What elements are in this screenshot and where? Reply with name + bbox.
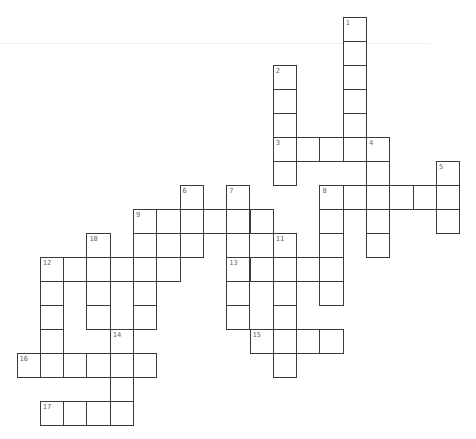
crossword-cell[interactable] xyxy=(273,281,297,306)
crossword-cell[interactable] xyxy=(133,233,157,258)
crossword-cell[interactable] xyxy=(86,401,110,426)
cell-input[interactable] xyxy=(437,162,459,185)
crossword-cell[interactable] xyxy=(366,233,390,258)
cell-input[interactable] xyxy=(134,306,156,329)
crossword-cell[interactable] xyxy=(156,233,180,258)
crossword-cell[interactable] xyxy=(133,257,157,282)
cell-input[interactable] xyxy=(297,138,319,161)
cell-input[interactable] xyxy=(367,138,389,161)
crossword-cell[interactable] xyxy=(226,281,250,306)
crossword-cell[interactable] xyxy=(343,41,367,66)
cell-input[interactable] xyxy=(134,234,156,257)
crossword-cell[interactable] xyxy=(273,353,297,378)
cell-input[interactable] xyxy=(274,234,296,257)
crossword-cell[interactable]: 7 xyxy=(226,185,250,210)
cell-input[interactable] xyxy=(111,402,133,425)
crossword-cell[interactable]: 3 xyxy=(273,137,297,162)
crossword-cell[interactable] xyxy=(86,281,110,306)
cell-input[interactable] xyxy=(320,138,342,161)
crossword-cell[interactable] xyxy=(319,233,343,258)
crossword-cell[interactable]: 4 xyxy=(366,137,390,162)
crossword-cell[interactable] xyxy=(156,209,180,234)
crossword-cell[interactable] xyxy=(366,161,390,186)
crossword-cell[interactable] xyxy=(296,329,320,354)
cell-input[interactable] xyxy=(367,234,389,257)
cell-input[interactable] xyxy=(437,186,459,209)
cell-input[interactable] xyxy=(227,210,249,233)
crossword-cell[interactable] xyxy=(389,185,413,210)
crossword-cell[interactable] xyxy=(273,329,297,354)
crossword-cell[interactable] xyxy=(133,305,157,330)
cell-input[interactable] xyxy=(251,258,273,281)
crossword-cell[interactable] xyxy=(180,233,204,258)
cell-input[interactable] xyxy=(274,114,296,137)
cell-input[interactable] xyxy=(157,258,179,281)
cell-input[interactable] xyxy=(344,66,366,89)
cell-input[interactable] xyxy=(274,354,296,377)
cell-input[interactable] xyxy=(227,258,249,281)
crossword-cell[interactable] xyxy=(86,257,110,282)
cell-input[interactable] xyxy=(274,66,296,89)
cell-input[interactable] xyxy=(344,18,366,41)
cell-input[interactable] xyxy=(87,306,109,329)
crossword-cell[interactable]: 11 xyxy=(273,233,297,258)
crossword-cell[interactable] xyxy=(133,353,157,378)
cell-input[interactable] xyxy=(111,354,133,377)
cell-input[interactable] xyxy=(320,210,342,233)
crossword-cell[interactable]: 9 xyxy=(133,209,157,234)
cell-input[interactable] xyxy=(297,330,319,353)
crossword-cell[interactable]: 8 xyxy=(319,185,343,210)
crossword-cell[interactable] xyxy=(436,209,460,234)
crossword-cell[interactable] xyxy=(296,137,320,162)
crossword-cell[interactable] xyxy=(319,137,343,162)
cell-input[interactable] xyxy=(64,402,86,425)
cell-input[interactable] xyxy=(367,210,389,233)
cell-input[interactable] xyxy=(274,330,296,353)
crossword-cell[interactable] xyxy=(250,209,274,234)
cell-input[interactable] xyxy=(181,210,203,233)
cell-input[interactable] xyxy=(344,114,366,137)
cell-input[interactable] xyxy=(274,282,296,305)
crossword-cell[interactable] xyxy=(273,89,297,114)
cell-input[interactable] xyxy=(41,330,63,353)
cell-input[interactable] xyxy=(64,354,86,377)
cell-input[interactable] xyxy=(320,186,342,209)
crossword-cell[interactable] xyxy=(366,185,390,210)
cell-input[interactable] xyxy=(41,306,63,329)
crossword-cell[interactable] xyxy=(319,209,343,234)
crossword-cell[interactable] xyxy=(226,233,250,258)
crossword-cell[interactable] xyxy=(63,401,87,426)
cell-input[interactable] xyxy=(344,186,366,209)
crossword-cell[interactable] xyxy=(156,257,180,282)
crossword-cell[interactable]: 10 xyxy=(86,233,110,258)
crossword-cell[interactable] xyxy=(63,257,87,282)
cell-input[interactable] xyxy=(344,90,366,113)
cell-input[interactable] xyxy=(41,402,63,425)
cell-input[interactable] xyxy=(227,234,249,257)
crossword-cell[interactable] xyxy=(343,185,367,210)
cell-input[interactable] xyxy=(41,282,63,305)
cell-input[interactable] xyxy=(414,186,436,209)
crossword-cell[interactable] xyxy=(366,209,390,234)
crossword-cell[interactable] xyxy=(226,209,250,234)
crossword-cell[interactable] xyxy=(273,161,297,186)
cell-input[interactable] xyxy=(344,42,366,65)
cell-input[interactable] xyxy=(367,186,389,209)
cell-input[interactable] xyxy=(41,258,63,281)
cell-input[interactable] xyxy=(64,258,86,281)
cell-input[interactable] xyxy=(367,162,389,185)
cell-input[interactable] xyxy=(134,282,156,305)
cell-input[interactable] xyxy=(134,210,156,233)
cell-input[interactable] xyxy=(274,90,296,113)
cell-input[interactable] xyxy=(111,330,133,353)
crossword-cell[interactable] xyxy=(343,137,367,162)
crossword-cell[interactable] xyxy=(133,281,157,306)
cell-input[interactable] xyxy=(87,354,109,377)
crossword-cell[interactable] xyxy=(319,257,343,282)
crossword-cell[interactable]: 1 xyxy=(343,17,367,42)
cell-input[interactable] xyxy=(274,162,296,185)
crossword-cell[interactable] xyxy=(273,113,297,138)
crossword-cell[interactable] xyxy=(40,353,64,378)
cell-input[interactable] xyxy=(87,234,109,257)
crossword-cell[interactable] xyxy=(203,209,227,234)
